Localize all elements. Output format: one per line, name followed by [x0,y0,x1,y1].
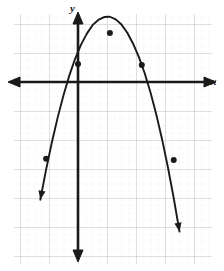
right-upper-point [139,62,145,68]
x-axis-label: x [211,76,217,87]
y-axis-label: y [70,3,75,14]
parabola-graph-figure: y x [0,0,224,271]
vertex-point [107,30,113,36]
right-lower-point [171,157,177,163]
left-lower-point [43,156,49,162]
grid-layer [14,14,212,264]
y-intercept-point [75,61,81,67]
coordinate-plane [0,0,224,271]
